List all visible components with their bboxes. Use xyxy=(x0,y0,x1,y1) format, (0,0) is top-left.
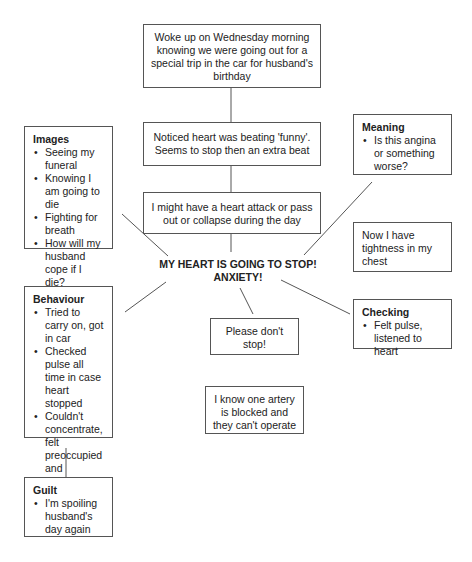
wake-up-box: Woke up on Wednesday morning knowing we … xyxy=(143,24,321,88)
tightness-box: Now I have tightness in my chest xyxy=(353,222,452,272)
meaning-item: Is this angina or something worse? xyxy=(374,134,443,173)
artery-box: I know one artery is blocked and they ca… xyxy=(205,386,304,434)
please-dont-stop-box: Please don't stop! xyxy=(210,318,299,355)
images-item: How will my husband cope if I die? xyxy=(45,237,104,289)
meaning-title: Meaning xyxy=(362,121,443,134)
checking-title: Checking xyxy=(362,306,443,319)
guilt-list: I'm spoiling husband's day again xyxy=(33,497,104,536)
central-thought-line2: ANXIETY! xyxy=(148,271,328,284)
please-dont-stop-text: Please don't stop! xyxy=(226,325,283,350)
checking-box: Checking Felt pulse, listened to heart xyxy=(353,299,452,349)
artery-text: I know one artery is blocked and they ca… xyxy=(213,393,296,431)
guilt-item: I'm spoiling husband's day again xyxy=(45,497,104,536)
connector-please-to-center xyxy=(240,288,253,314)
guilt-title: Guilt xyxy=(33,484,104,497)
images-item: Fighting for breath xyxy=(45,211,104,237)
meaning-list: Is this angina or something worse? xyxy=(362,134,443,173)
behaviour-title: Behaviour xyxy=(33,293,104,306)
tightness-text: Now I have tightness in my chest xyxy=(362,229,432,267)
noticed-heart-box: Noticed heart was beating 'funny'. Seems… xyxy=(143,122,321,166)
behaviour-list: Tried to carry on, got in car Checked pu… xyxy=(33,306,104,488)
images-item: Seeing my funeral xyxy=(45,146,104,172)
noticed-heart-text: Noticed heart was beating 'funny'. Seems… xyxy=(154,131,311,156)
heart-attack-text: I might have a heart attack or pass out … xyxy=(151,201,312,226)
wake-up-text: Woke up on Wednesday morning knowing we … xyxy=(151,31,313,82)
connector-behaviour-to-center xyxy=(125,282,166,312)
behaviour-item: Tried to carry on, got in car xyxy=(45,306,104,345)
heart-attack-box: I might have a heart attack or pass out … xyxy=(143,192,321,234)
images-list: Seeing my funeral Knowing I am going to … xyxy=(33,146,104,289)
checking-item: Felt pulse, listened to heart xyxy=(374,319,443,358)
connector-checking-to-center xyxy=(281,280,350,314)
guilt-box: Guilt I'm spoiling husband's day again xyxy=(24,477,113,537)
images-box: Images Seeing my funeral Knowing I am go… xyxy=(24,126,113,249)
behaviour-box: Behaviour Tried to carry on, got in car … xyxy=(24,286,113,438)
checking-list: Felt pulse, listened to heart xyxy=(362,319,443,358)
behaviour-item: Checked pulse all time in case heart sto… xyxy=(45,345,104,410)
images-title: Images xyxy=(33,133,104,146)
images-item: Knowing I am going to die xyxy=(45,172,104,211)
central-thought-line1: MY HEART IS GOING TO STOP! xyxy=(148,258,328,271)
central-thought: MY HEART IS GOING TO STOP! ANXIETY! xyxy=(148,258,328,284)
meaning-box: Meaning Is this angina or something wors… xyxy=(353,114,452,175)
